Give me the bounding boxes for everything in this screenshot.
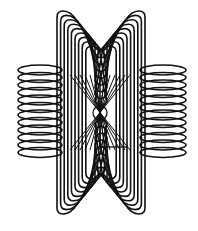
x-loop	[71, 29, 130, 197]
ring-right	[140, 148, 186, 158]
x-loop	[61, 15, 142, 209]
ring-left	[18, 148, 62, 158]
x-loop	[86, 46, 116, 179]
coil-diagram	[0, 0, 198, 231]
coil-drawing	[0, 0, 198, 231]
x-loop	[82, 42, 120, 183]
x-loop	[57, 11, 145, 214]
vertical-x-loops	[57, 11, 145, 214]
